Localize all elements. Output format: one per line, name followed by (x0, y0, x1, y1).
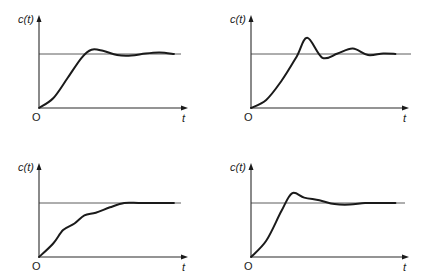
origin-label: O (244, 260, 253, 272)
x-axis-label: t (182, 261, 186, 273)
x-axis-label: t (182, 112, 186, 124)
x-axis-arrow-icon (402, 106, 409, 111)
y-axis-arrow-icon (37, 163, 42, 170)
origin-label: O (32, 111, 41, 123)
y-axis-label: c(t) (18, 13, 34, 25)
y-axis-label: c(t) (230, 161, 246, 173)
x-axis-arrow-icon (402, 255, 409, 260)
panel-bottom-left: c(t)Ot (18, 161, 188, 273)
panel-top-left: c(t)Ot (18, 13, 188, 124)
y-axis-arrow-icon (249, 163, 254, 170)
x-axis-arrow-icon (181, 255, 188, 260)
response-curve (251, 38, 395, 108)
panel-top-right: c(t)Ot (230, 13, 411, 124)
y-axis-label: c(t) (230, 13, 246, 25)
x-axis-arrow-icon (181, 106, 188, 111)
response-curve (39, 203, 174, 257)
response-curve (251, 193, 395, 257)
y-axis-label: c(t) (18, 161, 34, 173)
y-axis-arrow-icon (37, 15, 42, 22)
response-curve (39, 49, 174, 108)
x-axis-label: t (403, 112, 407, 124)
x-axis-label: t (403, 261, 407, 273)
origin-label: O (244, 111, 253, 123)
y-axis-arrow-icon (249, 15, 254, 22)
panel-bottom-right: c(t)Ot (230, 161, 409, 273)
origin-label: O (32, 260, 41, 272)
figure-canvas: c(t)Otc(t)Otc(t)Otc(t)Ot (0, 0, 433, 275)
